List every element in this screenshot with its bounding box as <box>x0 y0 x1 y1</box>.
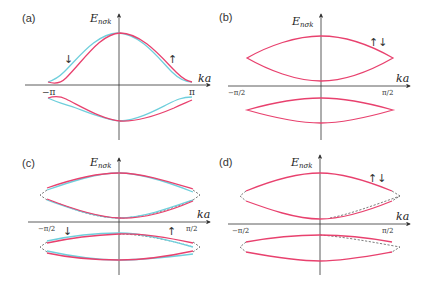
panel-c: (c) Enσk ka −π/2 π/2 ↓ ↑ <box>22 156 210 275</box>
panel-c-label: (c) <box>22 157 35 169</box>
upper-band-bottom <box>246 201 392 219</box>
upper-band-top-spin-up <box>47 173 193 189</box>
panel-a-label: (a) <box>22 12 35 24</box>
tick-pi: π <box>189 87 195 97</box>
tick-minus-pi: −π <box>42 87 56 97</box>
band-structure-figure: (a) Enσk ka −π π ↓ ↑ (b) Enσk ka −π/2 π/… <box>0 0 432 290</box>
tick-pi-half: π/2 <box>186 225 197 233</box>
spin-up-arrow: ↑ <box>167 225 176 238</box>
y-axis-label: Enσk <box>291 15 314 29</box>
panel-d-label: (d) <box>219 156 232 168</box>
tick-minus-pi-half: −π/2 <box>232 227 249 235</box>
panel-a: (a) Enσk ka −π π ↓ ↑ <box>22 12 211 140</box>
lower-band-top <box>246 235 392 242</box>
tick-minus-pi-half: −π/2 <box>38 225 55 233</box>
panel-b-label: (b) <box>219 11 232 23</box>
tick-pi-half: π/2 <box>382 227 393 235</box>
y-axis-label: Enσk <box>290 156 313 170</box>
x-axis-label: ka <box>396 210 409 223</box>
lower-band-spin-up <box>48 97 192 121</box>
y-axis-label: Enσk <box>89 156 112 170</box>
panel-b: (b) Enσk ka −π/2 π/2 ↑↓ <box>219 11 410 140</box>
tick-pi-half: π/2 <box>382 89 393 97</box>
lower-band-bottom <box>246 252 392 261</box>
panel-d: (d) Enσk ka −π/2 π/2 ↑↓ <box>219 155 410 275</box>
lower-band <box>247 98 393 123</box>
dashed-reference-upper <box>40 190 200 218</box>
x-axis-label: ka <box>197 208 210 221</box>
x-axis-label: ka <box>198 72 211 85</box>
x-axis-label: ka <box>396 72 409 85</box>
tick-minus-pi-half: −π/2 <box>228 89 245 97</box>
y-axis-label: Enσk <box>89 12 112 26</box>
spin-up-arrow: ↑ <box>168 53 177 66</box>
